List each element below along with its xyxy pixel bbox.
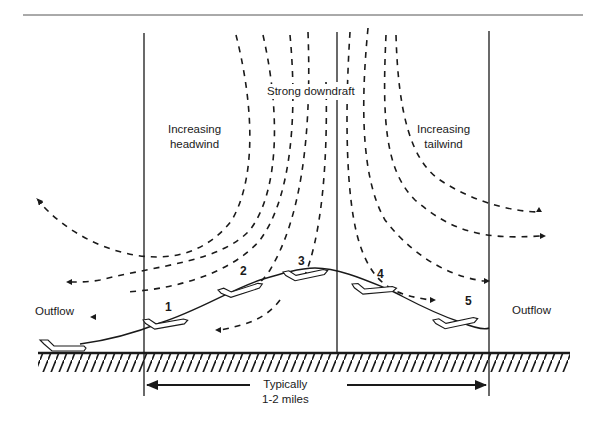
flight-path [80, 268, 489, 344]
distance-line-2: 1-2 miles [262, 392, 309, 407]
aircraft-3 [283, 263, 328, 283]
aircraft-label-3: 3 [298, 254, 305, 268]
headwind-line-2: headwind [168, 137, 221, 152]
increasing-headwind-label: Increasing headwind [168, 122, 221, 152]
outflow-right-label: Outflow [512, 303, 551, 318]
increasing-tailwind-label: Increasing tailwind [417, 122, 470, 152]
aircraft-start [40, 340, 86, 351]
wind-arrowheads [36, 198, 546, 333]
headwind-line-1: Increasing [168, 122, 221, 137]
strong-downdraft-label: Strong downdraft [265, 84, 357, 99]
microburst-diagram [0, 0, 602, 426]
aircraft-label-2: 2 [240, 264, 247, 278]
aircraft-4 [352, 280, 397, 295]
ground-hatch [38, 354, 570, 372]
aircraft-label-1: 1 [165, 300, 172, 314]
aircraft-2 [218, 276, 263, 300]
tailwind-line-2: tailwind [417, 137, 470, 152]
outflow-left-label: Outflow [35, 304, 74, 319]
wind-flow-lines [38, 28, 540, 330]
tailwind-line-1: Increasing [417, 122, 470, 137]
distance-line-1: Typically [262, 377, 309, 392]
aircraft-icons [40, 263, 478, 351]
distance-label: Typically 1-2 miles [262, 377, 309, 407]
aircraft-label-4: 4 [377, 267, 384, 281]
aircraft-label-5: 5 [465, 294, 472, 308]
